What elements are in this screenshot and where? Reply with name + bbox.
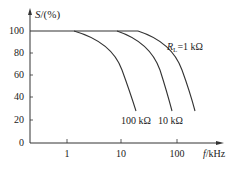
y-tick-label: 60 bbox=[14, 69, 24, 80]
x-axis-title: f/kHz bbox=[203, 148, 226, 159]
y-tick-label: 40 bbox=[14, 91, 24, 102]
curve-100k bbox=[74, 31, 136, 111]
curve-label-10k: 10 kΩ bbox=[158, 115, 183, 126]
frequency-response-chart: 100 80 60 40 20 0 1 10 100 S/(%) f/kHz R… bbox=[0, 0, 240, 174]
x-tick-label: 10 bbox=[116, 148, 126, 159]
x-tick-label: 100 bbox=[170, 148, 185, 159]
curve-10k bbox=[117, 31, 172, 111]
x-tick-label: 1 bbox=[65, 148, 70, 159]
y-tick-label: 80 bbox=[14, 47, 24, 58]
y-tick-label: 100 bbox=[9, 25, 24, 36]
y-axis-title: S/(%) bbox=[35, 8, 60, 21]
x-axis-arrow-icon bbox=[216, 141, 224, 145]
y-tick-label: 20 bbox=[14, 114, 24, 125]
curve-label-100k: 100 kΩ bbox=[121, 115, 151, 126]
y-axis-arrow-icon bbox=[28, 8, 32, 15]
y-tick-label: 0 bbox=[19, 137, 24, 148]
x-ticks bbox=[67, 139, 177, 143]
